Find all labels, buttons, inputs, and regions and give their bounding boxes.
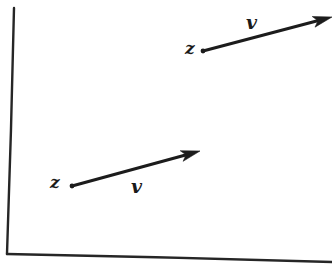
diagram-canvas [0, 0, 332, 269]
lower-vector-point-label: z [50, 174, 60, 191]
axes-group [7, 8, 332, 262]
horizontal-axis [7, 254, 332, 262]
vertical-axis [7, 8, 14, 254]
upper-vector-shaft [203, 21, 318, 51]
lower-vector-shaft [72, 155, 186, 186]
upper-vector-label: v [246, 13, 257, 32]
upper-vector-point-label: z [185, 40, 195, 57]
upper-vector [201, 17, 332, 54]
vector-diagram-figure: z v z v [0, 0, 332, 269]
lower-vector-label: v [131, 177, 142, 196]
vectors-group [70, 17, 332, 189]
